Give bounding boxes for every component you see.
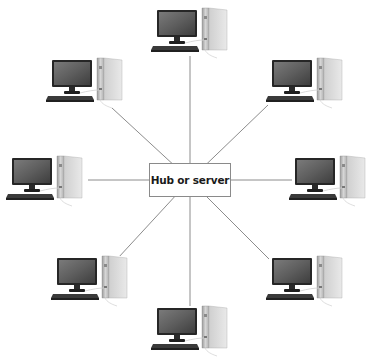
- computer-node-top-left: [46, 58, 125, 108]
- computer-node-right: [289, 156, 368, 206]
- computer-node-top-right: [266, 58, 345, 108]
- hub-label: Hub or server: [151, 174, 230, 186]
- computer-node-bottom-left: [51, 256, 130, 306]
- computer-node-top: [151, 8, 230, 58]
- hub-or-server-box: Hub or server: [149, 163, 231, 197]
- computer-node-bottom-right: [266, 256, 345, 306]
- computer-node-left: [6, 156, 85, 206]
- computer-node-bottom: [151, 306, 230, 356]
